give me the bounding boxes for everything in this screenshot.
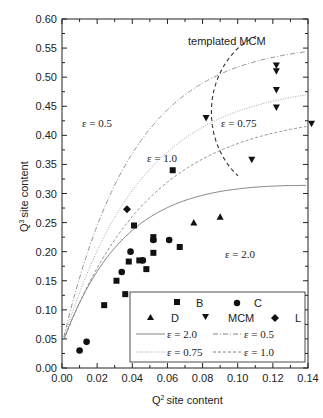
data-point-c: [76, 347, 83, 354]
data-point-d: [217, 213, 224, 220]
templated-mcm-boundary: [211, 36, 256, 176]
y-axis-title: Q3site content: [18, 161, 30, 232]
data-point-c: [127, 248, 134, 255]
legend-label-eps-1.0: ε = 1.0: [244, 346, 275, 358]
x-tick-label: 0.04: [122, 372, 143, 384]
data-point-b: [101, 302, 107, 308]
data-point-b: [143, 266, 149, 272]
y-tick-label: 0.10: [36, 304, 57, 316]
data-point-b: [131, 222, 137, 228]
annotation-templated-mcm: templated MCM: [188, 35, 266, 47]
y-tick-label: 0.55: [36, 42, 57, 54]
curve-label-eps-0.75: ε = 0.75: [221, 117, 257, 129]
curve-label-eps-2.0: ε = 2.0: [225, 248, 256, 260]
data-point-b: [170, 167, 176, 173]
x-tick-label: 0.08: [192, 372, 213, 384]
legend-label-l: L: [295, 312, 301, 324]
y-tick-label: 0.50: [36, 71, 57, 83]
data-point-c: [140, 257, 147, 264]
y-tick-label: 0.00: [36, 362, 57, 374]
legend-label-c: C: [254, 297, 262, 309]
y-tick-label: 0.15: [36, 275, 57, 287]
legend-label-eps-2.0: ε = 2.0: [167, 328, 198, 340]
data-point-mcm: [273, 104, 280, 111]
y-tick-label: 0.25: [36, 217, 57, 229]
data-point-mcm: [273, 68, 280, 75]
y-tick-label: 0.40: [36, 129, 57, 141]
x-tick-label: 0.14: [297, 372, 318, 384]
y-tick-label: 0.45: [36, 100, 57, 112]
data-point-b: [113, 278, 119, 284]
curve-label-eps-0.5: ε = 0.5: [82, 117, 113, 129]
data-point-mcm: [308, 121, 315, 128]
data-point-d: [190, 219, 197, 226]
legend-square-icon: [174, 299, 180, 305]
data-point-l: [123, 205, 131, 213]
data-point-c: [83, 339, 90, 346]
x-tick-label: 0.06: [157, 372, 178, 384]
legend-label-d: D: [171, 312, 179, 324]
y-tick-label: 0.05: [36, 333, 57, 345]
y-tick-label: 0.35: [36, 158, 57, 170]
data-point-b: [122, 291, 128, 297]
legend-circle-icon: [234, 300, 240, 306]
data-point-b: [126, 259, 132, 265]
x-tick-label: 0.10: [227, 372, 248, 384]
curve-label-eps-1.0: ε = 1.0: [147, 152, 178, 164]
data-point-b: [177, 244, 183, 250]
x-axis-title: Q2site content: [152, 394, 223, 406]
data-point-b: [150, 250, 156, 256]
x-tick-label: 0.02: [86, 372, 107, 384]
scatter-chart: 0.000.020.040.060.080.100.120.140.000.05…: [0, 0, 323, 418]
data-point-c: [166, 237, 173, 244]
y-tick-label: 0.60: [36, 13, 57, 25]
data-point-c: [118, 269, 125, 276]
legend-label-b: B: [196, 297, 203, 309]
data-point-mcm: [273, 63, 280, 70]
x-tick-label: 0.12: [262, 372, 283, 384]
y-tick-label: 0.30: [36, 188, 57, 200]
y-tick-label: 0.20: [36, 246, 57, 258]
legend: B C D MCM L ε = 2.0 ε = 0.5 ε = 0.75 ε =…: [130, 292, 305, 362]
data-point-mcm: [203, 115, 210, 122]
data-point-mcm: [248, 157, 255, 164]
legend-label-eps-0.75: ε = 0.75: [167, 346, 203, 358]
legend-label-mcm: MCM: [228, 312, 254, 324]
data-point-mcm: [273, 87, 280, 94]
legend-label-eps-0.5: ε = 0.5: [244, 328, 275, 340]
